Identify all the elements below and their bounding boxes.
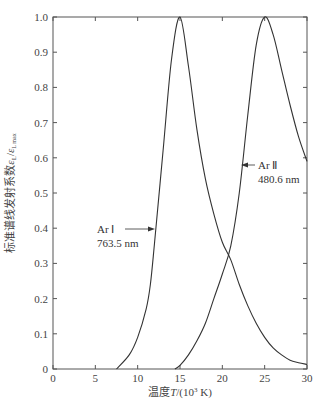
annotation-ar-ii-label: Ar Ⅱ — [258, 159, 277, 171]
arrow-head-icon — [148, 227, 155, 232]
y-axis-title-sub2: L max — [11, 133, 17, 148]
series-ar-ii-line — [175, 17, 307, 369]
y-tick-label: 0.9 — [34, 46, 48, 58]
x-tick-label: 10 — [132, 372, 144, 384]
y-tick-label: 0.6 — [34, 152, 48, 164]
x-tick-label: 0 — [50, 372, 56, 384]
data-series — [117, 17, 308, 369]
annotations: Ar Ⅰ 763.5 nm Ar Ⅱ 480.6 nm — [97, 159, 300, 249]
x-axis-title: 温度T/(103 K) — [148, 385, 212, 399]
plot-frame — [53, 17, 307, 369]
y-axis-title-text: 标准谱线发射系数 — [3, 165, 16, 253]
y-tick-label: 0.7 — [34, 117, 48, 129]
y-tick-label: 0.2 — [34, 293, 48, 305]
x-axis-title-unit-close: K) — [198, 386, 213, 399]
y-tick-label: 0.5 — [34, 187, 48, 199]
annotation-ar-i-wavelength: 763.5 nm — [97, 237, 139, 249]
svg-text:标准谱线发射系数εL/εL max: 标准谱线发射系数εL/εL max — [3, 133, 18, 252]
series-ar-i-line — [117, 17, 308, 369]
annotation-ar-ii: Ar Ⅱ 480.6 nm — [241, 159, 300, 185]
x-tick-label: 5 — [93, 372, 99, 384]
svg-text:温度T/(103 K): 温度T/(103 K) — [148, 385, 212, 399]
x-tick-label: 20 — [217, 372, 229, 384]
x-tick-label: 25 — [259, 372, 271, 384]
x-axis-ticks: 051015202530 — [50, 17, 313, 384]
annotation-ar-i: Ar Ⅰ 763.5 nm — [97, 223, 155, 249]
x-tick-label: 15 — [175, 372, 187, 384]
x-axis-title-unit: /(10 — [176, 386, 194, 399]
y-tick-label: 0.8 — [34, 81, 48, 93]
line-chart: 051015202530 00.10.20.30.40.50.60.70.80.… — [0, 0, 325, 411]
x-axis-title-text: 温度 — [148, 385, 170, 398]
x-tick-label: 30 — [302, 372, 314, 384]
y-tick-label: 0 — [43, 363, 49, 375]
y-axis-title: 标准谱线发射系数εL/εL max — [3, 133, 18, 252]
y-tick-label: 1.0 — [34, 11, 48, 23]
annotation-ar-i-label: Ar Ⅰ — [97, 223, 114, 235]
y-tick-label: 0.4 — [34, 222, 48, 234]
annotation-ar-ii-wavelength: 480.6 nm — [258, 173, 300, 185]
y-tick-label: 0.1 — [34, 328, 48, 340]
y-tick-label: 0.3 — [34, 257, 48, 269]
